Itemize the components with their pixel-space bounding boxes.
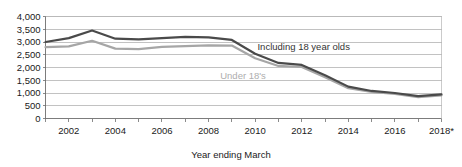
y-axis-tick-label: 2,000 [17,62,41,73]
y-axis-tick-label: 1,000 [17,87,41,98]
x-axis-tick-label: 2004 [105,125,126,136]
y-axis-tick-label: 3,000 [17,36,41,47]
line-chart: 05001,0001,5002,0002,5003,0003,5004,000 … [0,0,462,167]
series-annotations: Including 18 year oldsUnder 18's [220,41,350,81]
chart-canvas: 05001,0001,5002,0002,5003,0003,5004,000 … [0,0,462,167]
y-axis-tick-labels: 05001,0001,5002,0002,5003,0003,5004,000 [17,11,46,124]
x-axis-tick-label: 2008 [198,125,219,136]
data-series-group [46,31,442,98]
x-axis-tick-label: 2018* [429,125,454,136]
x-axis-tick-labels: 200220042006200820102012201420162018* [58,125,454,136]
x-axis-tick-label: 2010 [245,125,266,136]
x-axis-tick-label: 2016 [384,125,405,136]
series-label-including-18-year-olds: Including 18 year olds [257,41,350,52]
y-axis-tick-label: 0 [35,113,40,124]
series-label-under-18s: Under 18's [220,70,266,81]
x-axis-tick-label: 2002 [58,125,79,136]
y-axis-tick-label: 500 [25,100,41,111]
x-axis-tick-label: 2014 [338,125,359,136]
x-axis-tick-label: 2006 [151,125,172,136]
x-axis-tick-label: 2012 [291,125,312,136]
y-axis-tick-label: 1,500 [17,75,41,86]
y-axis-tick-label: 3,500 [17,24,41,35]
data-series-line-including-18-year-olds [46,31,442,97]
y-axis-tick-label: 4,000 [17,11,41,22]
x-axis-title: Year ending March [191,149,270,160]
y-axis-tick-label: 2,500 [17,49,41,60]
